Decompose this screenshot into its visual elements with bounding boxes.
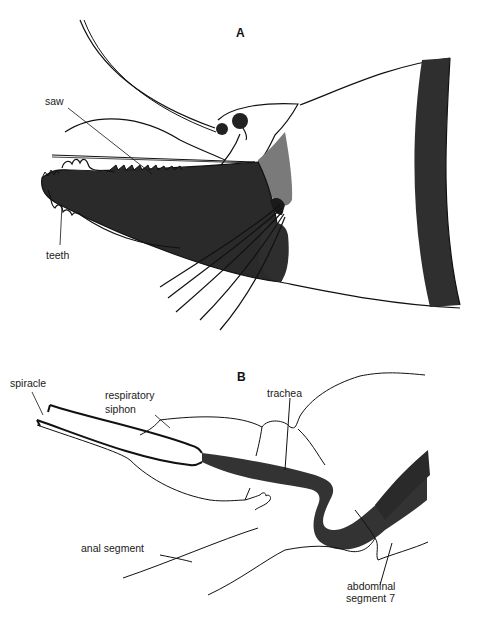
panel-b-drawing (37, 373, 430, 595)
label-abdominal: abdominal (347, 581, 395, 592)
diagram-drawing (0, 0, 481, 626)
panel-label-a: A (236, 26, 245, 40)
panel-label-b: B (237, 370, 246, 384)
label-segment-7: segment 7 (346, 593, 395, 604)
label-trachea: trachea (267, 388, 302, 399)
label-respiratory: respiratory (105, 390, 155, 401)
label-spiracle: spiracle (10, 378, 46, 389)
label-siphon: siphon (105, 404, 136, 415)
label-saw: saw (45, 96, 64, 107)
label-teeth: teeth (46, 250, 69, 261)
panel-a-drawing (42, 20, 460, 330)
label-anal-segment: anal segment (81, 543, 144, 554)
figure-canvas: A B saw teeth spiracle respiratory sipho… (0, 0, 481, 626)
